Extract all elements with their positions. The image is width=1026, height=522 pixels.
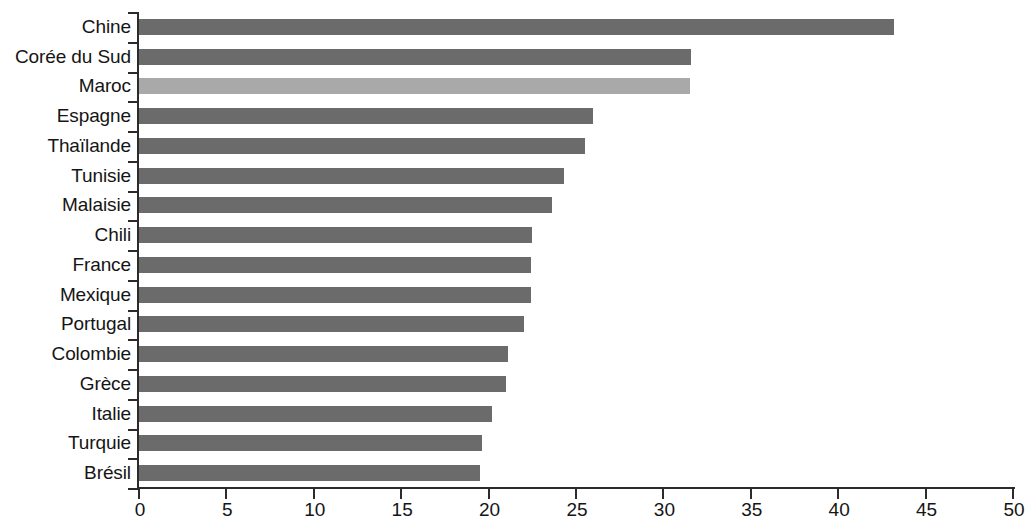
category-label: Corée du Sud: [0, 47, 131, 67]
value-tick-label: 40: [809, 499, 869, 521]
category-label: Portugal: [0, 314, 131, 334]
value-tick-label: 35: [722, 499, 782, 521]
value-tick: [662, 489, 664, 499]
bar: [139, 316, 524, 332]
value-tick: [750, 489, 752, 499]
category-label: France: [0, 255, 131, 275]
category-label: Thaïlande: [0, 136, 131, 156]
bar: [139, 435, 482, 451]
value-tick: [925, 489, 927, 499]
category-axis-labels: ChineCorée du SudMarocEspagneThaïlandeTu…: [0, 12, 131, 488]
bar: [139, 257, 531, 273]
plot-area: [139, 12, 1013, 488]
value-tick-label: 15: [372, 499, 432, 521]
bar: [139, 168, 564, 184]
value-tick-label: 10: [285, 499, 345, 521]
category-label: Grèce: [0, 374, 131, 394]
category-label: Chine: [0, 17, 131, 37]
category-label: Turquie: [0, 433, 131, 453]
category-label: Tunisie: [0, 166, 131, 186]
category-label: Chili: [0, 225, 131, 245]
value-tick: [225, 489, 227, 499]
value-tick-label: 25: [547, 499, 607, 521]
bar: [139, 465, 480, 481]
bar: [139, 227, 532, 243]
value-tick-label: 5: [197, 499, 257, 521]
value-tick-label: 45: [897, 499, 957, 521]
category-label: Brésil: [0, 463, 131, 483]
bar: [139, 197, 552, 213]
bar: [139, 78, 690, 94]
value-tick: [488, 489, 490, 499]
category-label: Mexique: [0, 285, 131, 305]
bar: [139, 138, 585, 154]
bar: [139, 49, 691, 65]
value-tick-label: 50: [984, 499, 1026, 521]
category-label: Maroc: [0, 76, 131, 96]
value-tick-label: 0: [110, 499, 170, 521]
bar-chart: ChineCorée du SudMarocEspagneThaïlandeTu…: [0, 0, 1026, 522]
bar: [139, 406, 492, 422]
value-tick: [837, 489, 839, 499]
category-label: Malaisie: [0, 195, 131, 215]
category-label: Italie: [0, 404, 131, 424]
value-tick: [1012, 489, 1014, 499]
value-tick: [138, 489, 140, 499]
value-tick: [313, 489, 315, 499]
category-label: Espagne: [0, 106, 131, 126]
bar: [139, 346, 508, 362]
value-tick-label: 30: [634, 499, 694, 521]
value-tick: [575, 489, 577, 499]
value-tick-label: 20: [460, 499, 520, 521]
bar: [139, 108, 593, 124]
bar: [139, 287, 531, 303]
bar: [139, 376, 506, 392]
value-tick: [400, 489, 402, 499]
category-label: Colombie: [0, 344, 131, 364]
bar: [139, 19, 894, 35]
